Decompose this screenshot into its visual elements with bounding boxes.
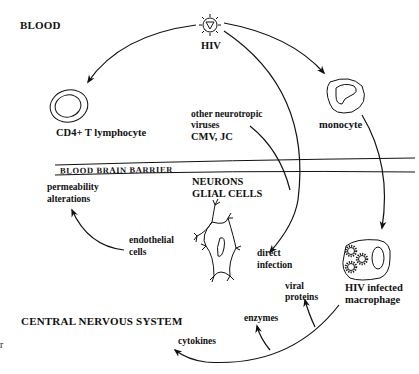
cd4-lymphocyte-icon: [47, 86, 92, 127]
region-label-cns: CENTRAL NERVOUS SYSTEM: [21, 316, 183, 327]
node-label-endothelial-1: endothelial: [129, 235, 174, 246]
node-label-direct-2: infection: [257, 260, 292, 271]
hiv-cns-diagram: BLOOD HIV CD4+ T lymphocyte monocyte oth…: [0, 0, 419, 374]
arrow-endothelial-to-permeability: [72, 210, 124, 250]
node-label-cd4: CD4+ T lymphocyte: [56, 127, 146, 138]
node-label-viral-proteins-2: proteins: [285, 292, 318, 303]
stray-mark: r: [0, 340, 3, 351]
node-label-other-viruses-2: viruses: [191, 120, 220, 131]
monocyte-icon: [327, 79, 364, 113]
node-label-glial-cells: GLIAL CELLS: [192, 188, 262, 199]
node-label-other-viruses-3: CMV, JC: [191, 131, 233, 142]
hiv-virus-icon: [199, 14, 221, 36]
node-label-cytokines: cytokines: [178, 336, 216, 347]
arrow-hiv-to-monocyte: [224, 23, 324, 73]
region-label-blood-brain-barrier: BLOOD BRAIN BARRIER: [60, 164, 173, 176]
node-label-neurons: NEURONS: [192, 176, 243, 187]
arrow-to-viral-proteins: [305, 300, 315, 327]
arrow-to-enzymes: [257, 326, 270, 350]
node-label-permeability-1: permeability: [47, 182, 99, 193]
arrow-viruses-to-direct-infection: [250, 126, 290, 190]
hiv-infected-macrophage-icon: [343, 240, 390, 280]
node-label-endothelial-2: cells: [129, 247, 146, 258]
glial-cell-icon: [194, 199, 241, 282]
region-label-blood: BLOOD: [20, 20, 61, 31]
arrow-hiv-to-cd4: [88, 25, 196, 82]
node-label-permeability-2: alterations: [47, 194, 90, 205]
node-label-monocyte: monocyte: [319, 119, 362, 130]
node-label-other-viruses-1: other neurotropic: [191, 109, 263, 120]
node-label-hiv: HIV: [201, 40, 221, 51]
node-label-direct-1: direct: [257, 248, 281, 259]
node-label-macrophage-2: macrophage: [345, 294, 400, 305]
node-label-macrophage-1: HIV infected: [345, 282, 403, 293]
node-label-viral-proteins-1: viral: [285, 281, 304, 292]
node-label-enzymes: enzymes: [244, 313, 278, 324]
arrow-hiv-to-direct-infection: [224, 31, 300, 252]
